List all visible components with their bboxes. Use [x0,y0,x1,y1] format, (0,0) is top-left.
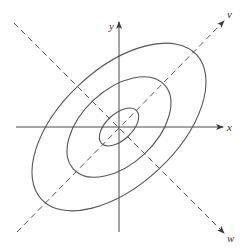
v-axis-label: v [227,8,232,20]
y-axis-label: y [108,20,114,32]
x-axis-label: x [226,121,232,133]
level-curves-diagram: y x v w [0,0,245,250]
w-axis-label: w [227,232,235,244]
